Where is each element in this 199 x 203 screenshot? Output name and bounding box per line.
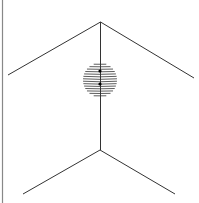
lower-corner xyxy=(23,150,175,194)
sphere-dot xyxy=(98,69,101,72)
sphere-dot xyxy=(98,82,101,85)
diagram-canvas xyxy=(0,0,199,203)
